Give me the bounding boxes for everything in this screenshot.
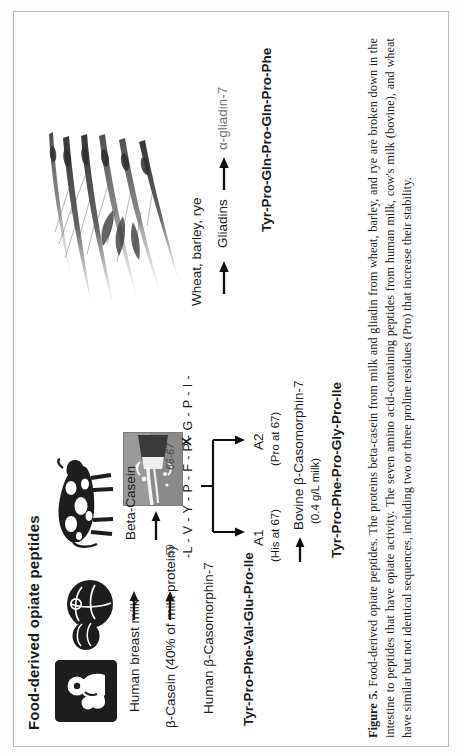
- rotated-figure-container: Food-derived opiate peptides: [19, 20, 443, 738]
- grain-peptide-sequence: Tyr-Pro-Gln-Pro-Gln-Pro-Phe: [259, 48, 274, 232]
- bovine-source-label: Beta-Casein: [123, 466, 138, 540]
- grain-source-label: Wheat, barley, rye: [189, 197, 204, 306]
- arrow-grain-source-to-protein: [217, 260, 230, 294]
- figure-caption: Figure 5. Food-derived opiate peptides. …: [365, 38, 416, 738]
- figure-caption-text: Food-derived opiate peptides. The protei…: [366, 38, 414, 738]
- breastfeeding-icon: [55, 660, 117, 722]
- grain-protein-label: Gliadins: [215, 199, 230, 248]
- page-frame: Food-derived opiate peptides: [13, 11, 449, 747]
- residue-start-number: 59: [165, 544, 177, 556]
- human-protein-label: β-Casein (40% of milk protein): [163, 546, 178, 728]
- variable-residue-x: X: [179, 437, 194, 446]
- arrow-human-protein-to-peptide: [163, 590, 176, 620]
- cow-illustration: [45, 458, 115, 550]
- bovine-peptide-amount: (0.4 g/L milk): [309, 458, 322, 524]
- grain-peptide-label: α-gliadin-7: [215, 87, 230, 150]
- bovine-peptide-sequence: Tyr-Pro-Phe-Pro-Gly-Pro-Ile: [329, 382, 344, 558]
- arrow-grain-protein-to-peptide: [217, 156, 230, 190]
- beta-casein-sequence-chain: -L - V - Y - P - F - P - G - P - I -: [181, 375, 195, 558]
- scanned-page: Food-derived opiate peptides: [0, 0, 464, 756]
- variant-a1-note: (His at 67): [269, 509, 282, 562]
- figure-caption-number: Figure 5.: [366, 690, 380, 738]
- figure-artwork-area: Food-derived opiate peptides: [19, 20, 349, 738]
- human-peptide-label: Human β-Casomorphin-7: [201, 562, 216, 714]
- wheat-stalks-illustration: [33, 130, 183, 308]
- human-peptide-sequence: Tyr-Pro-Phe-Val-Glu-Pro-Ile: [241, 552, 256, 726]
- arrow-bovine-source-to-sequence: [149, 510, 162, 540]
- variant-a2-note: (Pro at 67): [269, 412, 282, 466]
- arrow-a1-to-bovine-peptide: [293, 536, 306, 562]
- residue-end-number: 66-67: [165, 443, 177, 470]
- bovine-peptide-label: Bovine β-Casomorphin-7: [291, 380, 306, 530]
- variant-a2-label: A2: [251, 433, 266, 450]
- figure-title: Food-derived opiate peptides: [25, 515, 42, 730]
- arrow-human-source-to-protein: [127, 590, 140, 620]
- breast-illustration: [59, 576, 117, 652]
- variant-a1-label: A1: [251, 529, 266, 546]
- variant-split-bracket: [201, 430, 257, 542]
